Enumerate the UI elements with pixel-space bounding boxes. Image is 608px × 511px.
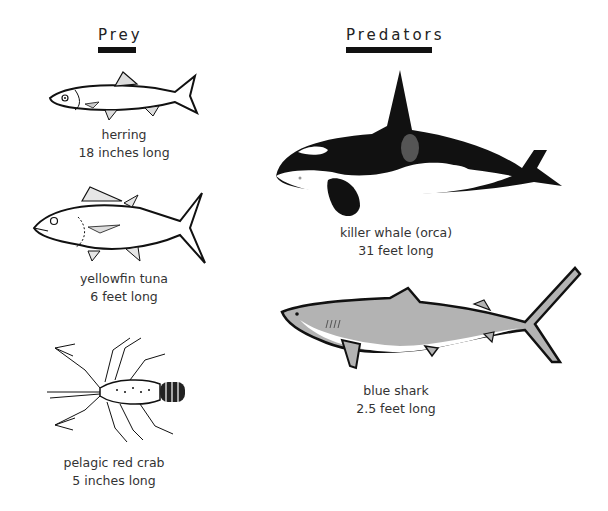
predators-heading-text: Predators [346,26,445,44]
prey-heading: Prey [98,26,136,53]
crab-name: pelagic red crab [14,454,214,472]
tuna-size: 6 feet long [24,288,224,306]
prey-heading-text: Prey [98,26,143,44]
herring-name: herring [24,126,224,144]
shark-size: 2.5 feet long [296,400,496,418]
orca-size: 31 feet long [296,242,496,260]
herring-size: 18 inches long [24,144,224,162]
orca-name: killer whale (orca) [296,224,496,242]
orca-icon [272,68,572,223]
orca-label: killer whale (orca) 31 feet long [296,224,496,260]
tuna-name: yellowfin tuna [24,270,224,288]
crab-size: 5 inches long [14,472,214,490]
predators-heading-underline [346,47,432,53]
herring-icon [45,68,205,123]
shark-label: blue shark 2.5 feet long [296,382,496,418]
tuna-icon [30,183,210,268]
predators-heading: Predators [346,26,432,53]
prey-heading-underline [98,47,136,53]
crab-icon [45,330,190,450]
crab-label: pelagic red crab 5 inches long [14,454,214,490]
tuna-label: yellowfin tuna 6 feet long [24,270,224,306]
shark-icon [280,264,585,374]
shark-name: blue shark [296,382,496,400]
herring-label: herring 18 inches long [24,126,224,162]
